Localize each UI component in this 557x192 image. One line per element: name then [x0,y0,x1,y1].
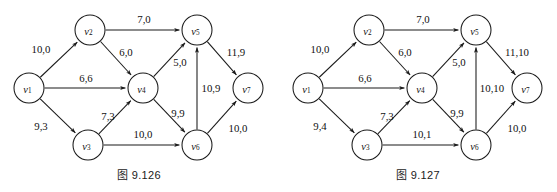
edge-label-v4-v6: 9,9 [171,107,185,119]
edge-label-v2-v5: 7,0 [137,13,151,25]
edge-label-v5-v7: 11,10 [505,46,529,58]
node-v4: v4 [407,73,437,103]
edge-label-v6-v7: 10,0 [508,122,527,134]
edge-label-v6-v5: 10,10 [480,82,504,94]
node-v6: v6 [461,130,491,160]
flow-network-graph-9-126: v1v2v3v4v5v6v710,06,69,37,06,07,310,05,0… [0,0,278,170]
edge-label-v1-v4: 6,6 [358,72,372,84]
edge-label-v2-v4: 6,0 [398,46,412,58]
edge-label-v3-v6: 10,1 [413,128,432,140]
flow-network-graph-9-127: v1v2v3v4v5v6v710,06,69,47,06,07,310,15,0… [279,0,557,170]
node-v7: v7 [512,73,542,103]
edge-label-v1-v2: 10,0 [32,43,51,55]
node-v3: v3 [73,130,103,160]
node-v7: v7 [233,73,263,103]
node-v5: v5 [182,15,212,45]
edge-label-v4-v6: 9,9 [450,107,464,119]
edge-label-v3-v6: 10,0 [134,128,153,140]
node-v1: v1 [14,73,44,103]
edge-label-v1-v4: 6,6 [79,72,93,84]
edge-label-v1-v2: 10,0 [311,43,330,55]
edge-label-v6-v5: 10,9 [202,82,221,94]
node-v1: v1 [293,73,323,103]
edge-label-v3-v4: 7,3 [380,110,394,122]
node-v6: v6 [182,130,212,160]
node-v2: v2 [75,15,105,45]
figure-panel-9-127: v1v2v3v4v5v6v710,06,69,47,06,07,310,15,0… [279,0,557,192]
node-v4: v4 [128,73,158,103]
edge-label-v3-v4: 7,3 [101,110,115,122]
figure-caption-9-127: 图 9.127 [279,166,557,182]
edge-label-v1-v3: 9,4 [313,120,327,132]
edge-label-v1-v3: 9,3 [34,120,48,132]
edge-label-v4-v5: 5,0 [173,56,187,68]
edge-label-v6-v7: 10,0 [229,122,248,134]
node-v2: v2 [354,15,384,45]
edge-label-v4-v5: 5,0 [452,56,466,68]
node-v5: v5 [461,15,491,45]
edge-label-v5-v7: 11,9 [227,46,246,58]
node-v3: v3 [352,130,382,160]
figure-panel-9-126: v1v2v3v4v5v6v710,06,69,37,06,07,310,05,0… [0,0,278,192]
figure-caption-9-126: 图 9.126 [0,166,278,182]
figure-sheet: v1v2v3v4v5v6v710,06,69,37,06,07,310,05,0… [0,0,557,192]
edge-label-v2-v4: 6,0 [119,46,133,58]
edge-label-v2-v5: 7,0 [416,13,430,25]
